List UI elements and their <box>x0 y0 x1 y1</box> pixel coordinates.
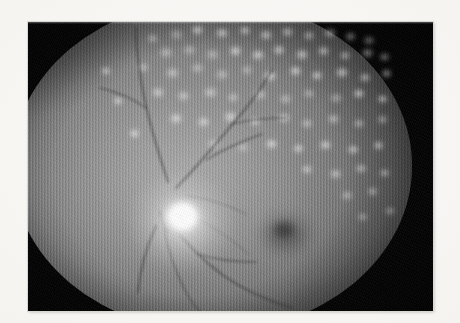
fundus-photo-frame <box>28 22 433 311</box>
vessel-superotemporal-branch-2 <box>232 118 286 124</box>
vessel-superonasal-branch <box>100 88 146 108</box>
optic-disc-core <box>169 204 196 229</box>
retinal-vessels <box>28 22 433 311</box>
figure-page <box>0 0 460 323</box>
fovea <box>274 222 294 237</box>
